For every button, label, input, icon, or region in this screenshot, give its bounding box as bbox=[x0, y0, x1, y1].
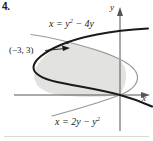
y-axis-arrowhead bbox=[117, 7, 123, 16]
intersection-point-label: (−3, 3) bbox=[9, 45, 34, 55]
lower-curve-equation-label: x = 2y − y2 bbox=[55, 116, 100, 127]
upper-curve-equation-label: x = y2 − 4y bbox=[49, 18, 94, 29]
y-axis-label: y bbox=[110, 2, 114, 12]
page-rule-divider bbox=[4, 136, 149, 137]
figure-container: 4. x = y2 − 4y x = 2y − y2 (−3, 3) y x bbox=[0, 0, 153, 141]
intersection-point-marker bbox=[66, 42, 69, 45]
x-axis-label: x bbox=[142, 93, 146, 103]
